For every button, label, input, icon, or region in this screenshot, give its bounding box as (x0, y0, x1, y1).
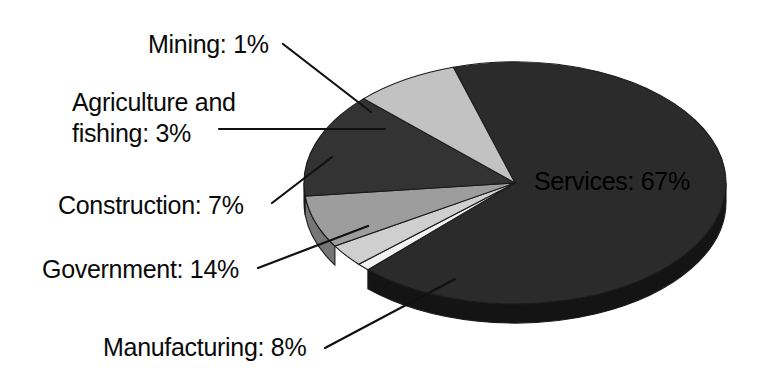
label-government: Government: 14% (42, 255, 239, 283)
label-agriculture-line2: fishing: 3% (72, 119, 191, 147)
label-mining: Mining: 1% (148, 30, 269, 58)
label-services: Services: 67% (534, 167, 690, 195)
label-construction: Construction: 7% (58, 191, 244, 219)
label-agriculture-line1: Agriculture and (72, 88, 236, 116)
label-manufacturing: Manufacturing: 8% (103, 333, 306, 361)
pie-chart-canvas: Mining: 1% Agriculture and fishing: 3% C… (0, 0, 774, 383)
pie-chart-figure: Mining: 1% Agriculture and fishing: 3% C… (0, 0, 774, 383)
